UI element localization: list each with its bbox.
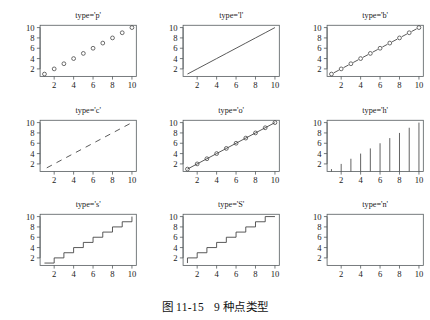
figure-caption: 图 11-159 种点类型 (0, 298, 430, 314)
plot-panel-c: type='c'246810246810 (0, 99, 143, 194)
x-tick-label: 10 (128, 175, 137, 185)
x-tick-label: 2 (339, 80, 343, 90)
data-point (91, 46, 95, 50)
x-tick-label: 6 (234, 175, 239, 185)
y-tick-label: 10 (26, 23, 35, 33)
y-tick-label: 4 (174, 54, 179, 64)
data-line (47, 123, 130, 167)
data-point (120, 31, 124, 35)
y-tick-label: 10 (313, 212, 322, 222)
y-tick-label: 6 (174, 138, 179, 148)
x-tick-label: 8 (110, 80, 114, 90)
x-tick-label: 10 (128, 80, 137, 90)
y-tick-label: 2 (30, 64, 34, 74)
panel-title: type='s' (76, 201, 101, 210)
y-tick-label: 8 (317, 222, 321, 232)
data-point (339, 67, 343, 71)
x-tick-label: 4 (358, 270, 363, 280)
y-tick-label: 6 (174, 233, 179, 243)
caption-text: 9 种点类型 (214, 301, 268, 313)
x-tick-label: 10 (128, 270, 137, 280)
y-tick-label: 4 (317, 54, 322, 64)
x-tick-label: 8 (397, 270, 401, 280)
x-tick-label: 10 (414, 175, 423, 185)
x-tick-label: 2 (195, 175, 199, 185)
y-tick-label: 8 (30, 33, 34, 43)
y-tick-label: 6 (30, 138, 35, 148)
caption-number: 图 11-15 (162, 301, 204, 313)
data-point (52, 67, 56, 71)
y-tick-label: 10 (26, 212, 35, 222)
y-tick-label: 8 (30, 222, 34, 232)
panel-title: type='l' (220, 11, 245, 20)
x-tick-label: 10 (271, 270, 280, 280)
x-tick-label: 4 (71, 270, 76, 280)
x-tick-label: 6 (91, 175, 96, 185)
x-tick-label: 4 (358, 80, 363, 90)
x-tick-label: 2 (52, 270, 56, 280)
data-point (273, 120, 277, 124)
y-tick-label: 8 (174, 222, 178, 232)
y-tick-label: 2 (174, 159, 178, 169)
x-tick-label: 4 (215, 175, 220, 185)
y-tick-label: 6 (30, 43, 35, 53)
data-point (43, 72, 47, 76)
x-tick-label: 8 (254, 80, 258, 90)
y-tick-label: 10 (26, 117, 35, 127)
y-tick-label: 8 (30, 128, 34, 138)
plot-box (327, 215, 423, 266)
x-tick-label: 4 (358, 175, 363, 185)
y-tick-label: 2 (30, 159, 34, 169)
x-tick-label: 8 (110, 175, 114, 185)
data-point (397, 36, 401, 40)
x-tick-label: 2 (52, 80, 56, 90)
plot-panel-p: type='p'246810246810 (0, 4, 143, 99)
x-tick-label: 10 (271, 80, 280, 90)
y-tick-label: 4 (174, 243, 179, 253)
data-line (333, 29, 416, 73)
data-point (72, 57, 76, 61)
x-tick-label: 6 (378, 270, 383, 280)
y-tick-label: 4 (30, 54, 35, 64)
data-line (188, 217, 275, 263)
data-point (368, 52, 372, 56)
y-tick-label: 8 (317, 33, 321, 43)
plot-panel-S: type='S'246810246810 (143, 193, 286, 288)
y-tick-label: 8 (174, 128, 178, 138)
y-tick-label: 10 (313, 117, 322, 127)
y-tick-label: 2 (174, 64, 178, 74)
x-tick-label: 8 (397, 80, 401, 90)
y-tick-label: 2 (317, 159, 321, 169)
data-point (81, 52, 85, 56)
data-point (407, 31, 411, 35)
data-line (188, 122, 275, 168)
x-tick-label: 2 (52, 175, 56, 185)
x-tick-label: 2 (339, 270, 343, 280)
data-point (358, 57, 362, 61)
panel-title: type='h' (362, 106, 388, 115)
data-point (417, 26, 421, 30)
panel-title: type='p' (75, 11, 101, 20)
x-tick-label: 8 (254, 175, 258, 185)
x-tick-label: 10 (271, 175, 280, 185)
data-point (62, 62, 66, 66)
x-tick-label: 6 (91, 270, 96, 280)
data-point (378, 46, 382, 50)
y-tick-label: 10 (169, 117, 178, 127)
x-tick-label: 2 (339, 175, 343, 185)
x-tick-label: 4 (71, 175, 76, 185)
data-point (111, 36, 115, 40)
y-tick-label: 4 (30, 148, 35, 158)
plot-panel-s: type='s'246810246810 (0, 193, 143, 288)
y-tick-label: 4 (317, 243, 322, 253)
data-point (186, 167, 190, 171)
x-tick-label: 2 (195, 270, 199, 280)
data-point (130, 26, 134, 30)
data-point (388, 41, 392, 45)
data-point (329, 72, 333, 76)
y-tick-label: 10 (169, 23, 178, 33)
x-tick-label: 6 (234, 270, 239, 280)
panel-grid: type='p'246810246810type='l'246810246810… (0, 4, 430, 288)
panel-title: type='n' (362, 201, 388, 210)
x-tick-label: 10 (414, 80, 423, 90)
